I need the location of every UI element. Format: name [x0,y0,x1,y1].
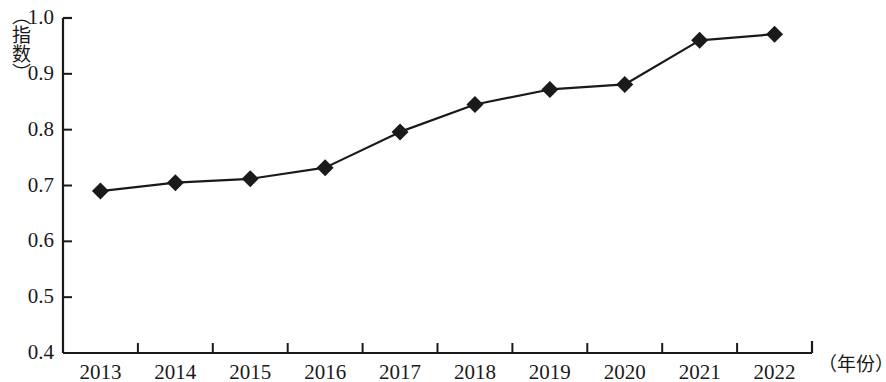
data-point-marker [167,174,184,191]
data-point-marker [92,183,109,200]
data-point-marker [317,159,334,176]
x-axis-tick-label: 2016 [287,362,363,382]
y-axis-tick-label: 0.4 [10,342,54,363]
x-axis-tick-label: 2017 [362,362,438,382]
y-axis-tick-label: 0.7 [10,175,54,196]
y-axis-tick-label: 0.9 [10,63,54,84]
x-axis-tick-label: 2022 [737,362,813,382]
y-axis-tick-label: 0.6 [10,230,54,251]
data-point-marker [466,96,483,113]
data-point-marker [392,123,409,140]
data-point-marker [616,76,633,93]
x-axis-tick-label: 2013 [62,362,138,382]
x-axis-tick-label: 2015 [212,362,288,382]
data-point-marker [242,170,259,187]
x-axis-tick-label: 2021 [662,362,738,382]
y-axis-tick-label: 1.0 [10,7,54,28]
data-point-marker [541,81,558,98]
series-line [100,34,774,191]
axis-ticks [63,74,737,353]
y-axis-tick-label: 0.8 [10,119,54,140]
x-axis-tick-label: 2018 [437,362,513,382]
x-axis-tick-label: 2020 [587,362,663,382]
data-point-marker [691,32,708,49]
y-axis-tick-label: 0.5 [10,286,54,307]
data-point-marker [766,26,783,43]
x-axis-tick-label: 2019 [512,362,588,382]
x-axis-tick-label: 2014 [137,362,213,382]
